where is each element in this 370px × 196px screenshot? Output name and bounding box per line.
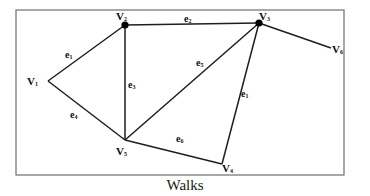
edge-label: e1	[241, 88, 248, 99]
vertex-labels-group: V1V2V3V4V5V6	[27, 10, 343, 174]
edge-label: e2	[184, 13, 191, 24]
edge-labels-group: e1e2e3e4e5e6e1	[65, 13, 248, 144]
edge-v1-v5	[48, 81, 125, 140]
edge-label: e3	[128, 79, 135, 90]
edge-v2-v3	[125, 23, 259, 25]
vertex-label-v5: V5	[116, 145, 127, 157]
vertex-label-v2: V2	[116, 10, 127, 22]
vertex-label-v1: V1	[27, 75, 38, 87]
edge-label: e6	[176, 133, 183, 144]
vertex-label-v4: V4	[222, 162, 233, 174]
edge-label: e5	[196, 57, 203, 68]
edge-v5-v4	[125, 140, 222, 164]
vertex-label-v6: V6	[332, 43, 343, 55]
edge-v5-v3	[125, 23, 259, 140]
vertex-label-v3: V3	[259, 10, 270, 22]
edge-v1-v2	[48, 25, 125, 81]
graph-diagram: e1e2e3e4e5e6e1 V1V2V3V4V5V6 Walks	[0, 0, 370, 196]
vertex-dot-v2	[121, 21, 128, 28]
edges-group	[48, 23, 331, 164]
edge-label: e4	[70, 109, 77, 120]
figure-caption: Walks	[166, 177, 203, 193]
edge-label: e1	[65, 49, 72, 60]
edge-v3-v6	[259, 23, 331, 48]
